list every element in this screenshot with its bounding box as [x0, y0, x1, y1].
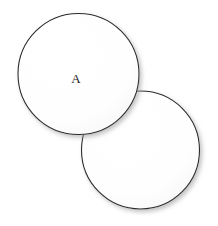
circle-a-label: A: [71, 71, 81, 86]
figure-canvas: A: [0, 0, 218, 226]
circles-diagram-svg: A: [0, 0, 218, 226]
